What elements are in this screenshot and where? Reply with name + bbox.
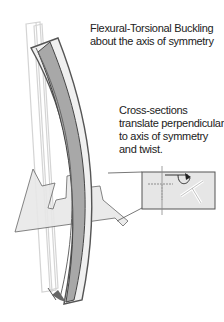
- cross-section-note: Cross-sections translate perpendicular t…: [119, 104, 224, 156]
- cross-section-callout: [108, 166, 215, 221]
- note-line-1: Cross-sections: [119, 104, 224, 117]
- buckling-diagram: [0, 0, 224, 322]
- note-line-4: and twist.: [119, 143, 224, 156]
- title-line-2: about the axis of symmetry: [90, 35, 224, 48]
- title-line-1: Flexural-Torsional Buckling: [90, 22, 224, 35]
- note-line-3: to axis of symmetry: [119, 130, 224, 143]
- diagram-title: Flexural-Torsional Buckling about the ax…: [90, 22, 224, 48]
- note-line-2: translate perpendicular: [119, 117, 224, 130]
